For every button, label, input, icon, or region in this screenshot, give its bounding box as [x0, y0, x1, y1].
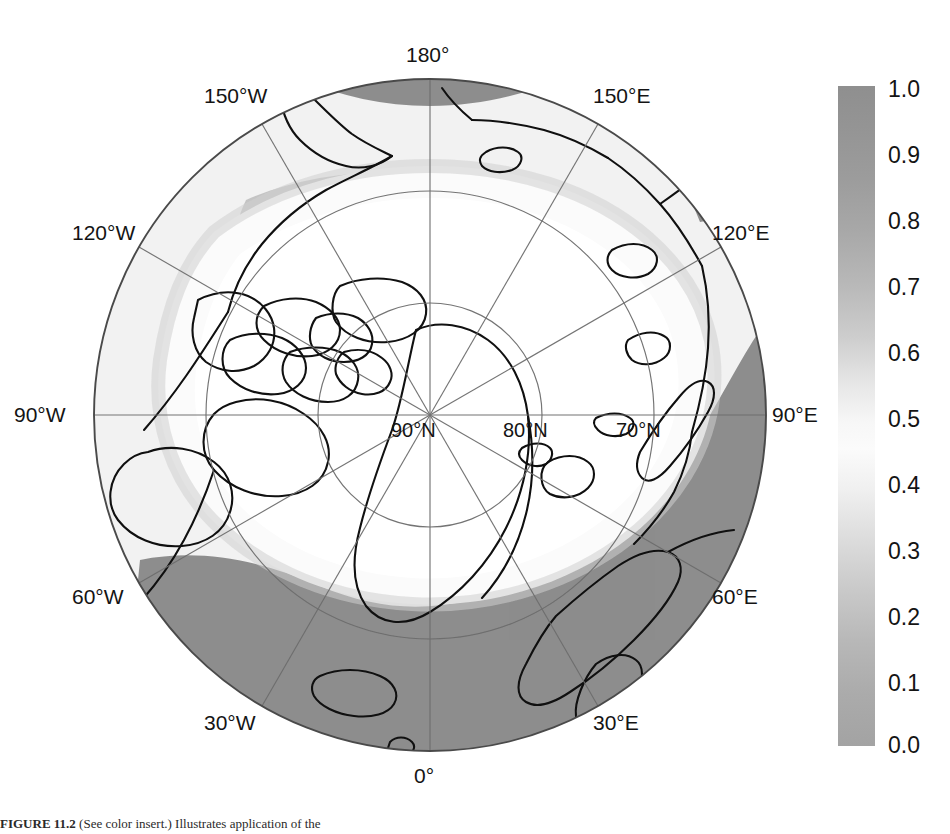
lat-label-80n: 80°N [503, 420, 548, 440]
colorbar-tick-0-0: 0.0 [888, 734, 920, 757]
lon-label-60e: 60°E [712, 586, 758, 607]
colorbar[interactable]: 1.0 0.9 0.8 0.7 0.6 0.5 0.4 0.3 0.2 0.1 … [838, 86, 950, 766]
lon-label-180: 180° [406, 44, 449, 65]
figure-container: 180° 150°W 120°W 90°W 60°W 30°W 0° 30°E … [0, 0, 950, 834]
lon-label-90e: 90°E [772, 404, 818, 425]
lon-label-150w: 150°W [204, 85, 267, 106]
colorbar-tick-0-9: 0.9 [888, 144, 920, 167]
colorbar-tick-0-1: 0.1 [888, 672, 920, 695]
caption-label: FIGURE 11.2 [0, 816, 76, 831]
figure-caption: FIGURE 11.2 (See color insert.) Illustra… [0, 816, 950, 834]
colorbar-tick-1-0: 1.0 [888, 78, 920, 101]
colorbar-tick-0-6: 0.6 [888, 342, 920, 365]
polar-map-panel: 180° 150°W 120°W 90°W 60°W 30°W 0° 30°E … [0, 0, 820, 800]
lon-label-0: 0° [414, 765, 434, 786]
lon-label-60w: 60°W [72, 586, 124, 607]
lat-label-90n: 90°N [391, 420, 436, 440]
colorbar-tick-0-4: 0.4 [888, 474, 920, 497]
colorbar-gradient-bar[interactable] [838, 86, 875, 746]
lon-label-150e: 150°E [593, 85, 650, 106]
lat-label-70n: 70°N [616, 420, 661, 440]
polar-map-svg [0, 0, 820, 800]
caption-text: (See color insert.) Illustrates applicat… [76, 816, 321, 831]
lon-label-90w: 90°W [14, 404, 66, 425]
colorbar-tick-0-2: 0.2 [888, 606, 920, 629]
colorbar-tick-0-8: 0.8 [888, 210, 920, 233]
lon-label-120w: 120°W [72, 222, 135, 243]
colorbar-tick-0-7: 0.7 [888, 276, 920, 299]
colorbar-tick-0-5: 0.5 [888, 408, 920, 431]
lon-label-30e: 30°E [593, 712, 639, 733]
colorbar-tick-0-3: 0.3 [888, 540, 920, 563]
lon-label-30w: 30°W [204, 712, 256, 733]
lon-label-120e: 120°E [712, 222, 769, 243]
